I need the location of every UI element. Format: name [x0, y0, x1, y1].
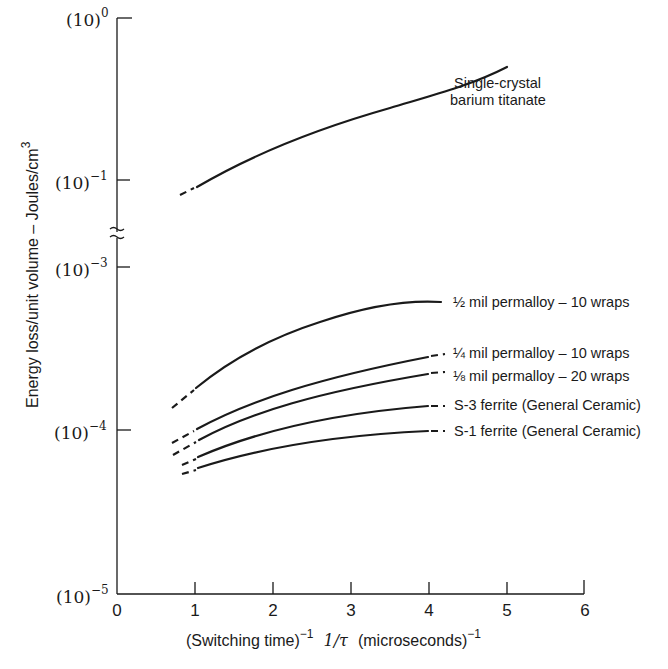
series-labels: Single-crystal barium titanate ½ mil per… — [450, 75, 641, 439]
x-axis-title: (Switching time)−11/τ(microseconds)−1 — [186, 627, 481, 650]
y-tick-labels: (10)0 (10)−1 (10)−3 (10)−4 (10)−5 — [54, 6, 109, 607]
series-half-mil-permalloy — [172, 302, 441, 408]
x-tick-labels: 0 1 2 3 4 5 6 — [112, 601, 589, 620]
x-tick-label: 4 — [424, 601, 433, 620]
label-s1-ferrite: S-1 ferrite (General Ceramic) — [454, 423, 641, 439]
y-tick-label: (10)−5 — [56, 583, 109, 607]
label-eighth-mil-permalloy: ⅛ mil permalloy – 20 wraps — [453, 368, 630, 384]
chart: (10)0 (10)−1 (10)−3 (10)−4 (10)−5 Energy… — [0, 0, 668, 669]
label-s3-ferrite: S-3 ferrite (General Ceramic) — [454, 397, 641, 413]
x-tick-label: 2 — [268, 601, 277, 620]
series-s3-ferrite — [182, 406, 445, 465]
x-tick-label: 0 — [112, 601, 121, 620]
y-axis — [110, 18, 132, 594]
x-tick-label: 6 — [580, 601, 589, 620]
series-s1-ferrite — [182, 431, 445, 474]
y-tick-label: (10)−1 — [55, 169, 108, 193]
label-half-mil-permalloy: ½ mil permalloy – 10 wraps — [453, 294, 630, 310]
y-tick-label: (10)−3 — [55, 256, 108, 280]
label-quarter-mil-permalloy: ¼ mil permalloy – 10 wraps — [453, 345, 630, 361]
label-barium-titanate-line2: barium titanate — [450, 92, 546, 108]
y-tick-label: (10)−4 — [54, 419, 107, 443]
x-tick-label: 5 — [502, 601, 511, 620]
x-tick-label: 1 — [190, 601, 199, 620]
x-tick-label: 3 — [346, 601, 355, 620]
y-tick-label: (10)0 — [66, 6, 109, 30]
label-barium-titanate-line1: Single-crystal — [454, 75, 541, 91]
x-axis — [117, 580, 584, 594]
y-axis-title: Energy loss/unit volume – Joules/cm3 — [19, 141, 41, 408]
